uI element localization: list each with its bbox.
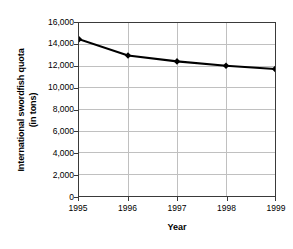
y-tick-label: 14,000: [40, 39, 74, 48]
y-tick-label: 6,000: [40, 127, 74, 136]
x-tick-label: 1999: [256, 203, 293, 213]
x-axis-tick-marks: [78, 197, 276, 201]
y-tick-label: 2,000: [40, 171, 74, 180]
y-axis-title: International swordfish quota (in tons): [14, 22, 40, 198]
data-series-quota: [79, 23, 275, 196]
y-tick-label: 10,000: [40, 83, 74, 92]
x-tick-mark: [78, 197, 79, 201]
y-tick-label: 4,000: [40, 149, 74, 158]
y-tick-label: 16,000: [40, 18, 74, 27]
x-axis-title: Year: [78, 222, 276, 233]
x-tick-label: 1998: [207, 203, 247, 213]
chart-figure: International swordfish quota (in tons) …: [0, 0, 293, 249]
x-tick-mark: [275, 197, 276, 201]
y-tick-label: 0: [40, 193, 74, 202]
y-tick-label: 8,000: [40, 105, 74, 114]
y-tick-label: 12,000: [40, 61, 74, 70]
x-tick-mark: [227, 197, 228, 201]
x-tick-label: 1996: [108, 203, 148, 213]
y-axis-tick-labels: 02,0004,0006,0008,00010,00012,00014,0001…: [38, 22, 74, 197]
plot-area: [78, 22, 276, 197]
x-tick-mark: [128, 197, 129, 201]
y-axis-title-line-1: International swordfish quota: [15, 48, 27, 171]
x-tick-label: 1995: [58, 203, 98, 213]
x-tick-mark: [177, 197, 178, 201]
x-axis-tick-labels: 19951996199719981999: [78, 203, 276, 215]
x-tick-label: 1997: [157, 203, 197, 213]
